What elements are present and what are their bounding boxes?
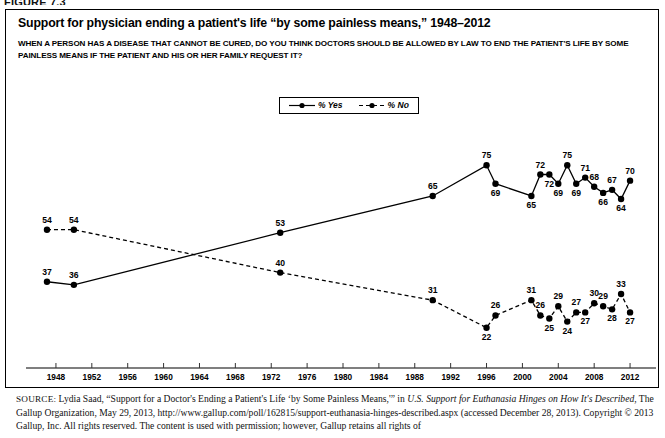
x-axis-tick-label: 1968 <box>226 372 244 382</box>
data-point-label: 75 <box>562 151 572 160</box>
data-point-label: 29 <box>554 292 564 301</box>
data-point-label: 36 <box>69 271 79 280</box>
data-point-label: 65 <box>428 182 438 191</box>
x-axis-tick-label: 2008 <box>585 372 603 382</box>
x-axis-tick-label: 1960 <box>154 372 172 382</box>
page-title: Support for physician ending a patient's… <box>18 16 638 30</box>
data-point-label: 68 <box>589 173 599 182</box>
data-point-label: 67 <box>607 176 617 185</box>
legend-label-no: % No <box>388 100 409 110</box>
figure-number-label: FIGURE 7.3 <box>4 0 66 5</box>
data-point-label: 25 <box>545 324 555 333</box>
data-point-label: 27 <box>580 317 590 326</box>
x-axis-tick-label: 1952 <box>83 372 101 382</box>
x-axis-tick-label: 1948 <box>47 372 65 382</box>
x-axis-tick-label: 1984 <box>370 372 388 382</box>
figure-border <box>5 9 659 388</box>
data-point-label: 70 <box>625 167 635 176</box>
data-point-label: 27 <box>625 317 635 326</box>
data-point-label: 69 <box>491 189 501 198</box>
x-axis-tick-label: 1992 <box>441 372 459 382</box>
x-axis-tick-label: 1964 <box>190 372 208 382</box>
data-point-label: 31 <box>527 286 537 295</box>
chart-legend: % Yes % No <box>279 97 419 114</box>
data-point-label: 40 <box>275 259 285 268</box>
source-prefix: SOURCE: <box>16 394 56 404</box>
x-axis-tick-label: 1988 <box>406 372 424 382</box>
data-point-label: 29 <box>598 292 608 301</box>
x-axis-tick-label: 2000 <box>513 372 531 382</box>
data-point-label: 26 <box>491 301 501 310</box>
x-axis-tick-label: 1972 <box>262 372 280 382</box>
data-point-label: 33 <box>616 280 626 289</box>
x-axis-tick-label: 2012 <box>621 372 639 382</box>
x-axis-tick-label: 1956 <box>118 372 136 382</box>
source-italic-title: U.S. Support for Euthanasia Hinges on Ho… <box>407 393 634 404</box>
data-point-label: 69 <box>554 189 564 198</box>
data-point-label: 69 <box>571 189 581 198</box>
data-point-label: 66 <box>598 198 608 207</box>
legend-item-yes[interactable]: % Yes <box>289 100 343 110</box>
data-point-label: 54 <box>69 216 79 225</box>
legend-item-no[interactable]: % No <box>359 100 409 110</box>
data-point-label: 28 <box>607 314 617 323</box>
data-point-label: 37 <box>42 268 52 277</box>
x-axis-tick-label: 1976 <box>298 372 316 382</box>
x-axis-tick-label: 1996 <box>477 372 495 382</box>
data-point-label: 54 <box>42 216 52 225</box>
legend-solid-line-icon <box>289 101 315 110</box>
data-point-label: 64 <box>616 204 626 213</box>
data-point-label: 26 <box>536 301 546 310</box>
source-text-a: Lydia Saad, “Support for a Doctor's Endi… <box>56 393 407 404</box>
source-citation: SOURCE: Lydia Saad, “Support for a Docto… <box>16 392 656 433</box>
data-point-label: 27 <box>571 298 581 307</box>
data-point-label: 22 <box>482 333 492 342</box>
data-point-label: 65 <box>527 201 537 210</box>
chart-question-text: WHEN A PERSON HAS A DISEASE THAT CANNOT … <box>18 38 648 61</box>
data-point-label: 72 <box>536 161 546 170</box>
x-axis-tick-label: 1980 <box>334 372 352 382</box>
data-point-label: 24 <box>562 327 572 336</box>
legend-dashed-line-icon <box>359 101 385 110</box>
x-axis-tick-label: 2004 <box>549 372 567 382</box>
data-point-label: 31 <box>428 286 438 295</box>
data-point-label: 75 <box>482 151 492 160</box>
legend-label-yes: % Yes <box>318 100 343 110</box>
data-point-label: 53 <box>275 219 285 228</box>
